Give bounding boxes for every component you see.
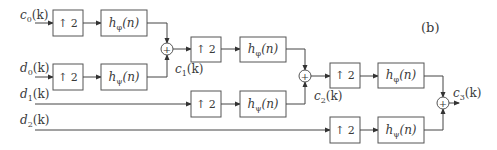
upsampler-stage3-d2: ↑ 2	[330, 117, 360, 143]
svg-text:c2(k): c2(k)	[314, 89, 342, 105]
scaling-filter-stage1: hφ(n)	[101, 10, 147, 36]
upsampler-stage2-c1: ↑ 2	[191, 37, 221, 62]
svg-text:↑ 2: ↑ 2	[196, 43, 216, 56]
upsampler-stage1-c0: ↑ 2	[53, 10, 83, 36]
svg-text:hψ(n): hψ(n)	[385, 123, 416, 139]
svg-text:hφ(n): hφ(n)	[109, 16, 140, 32]
svg-text:↑ 2: ↑ 2	[196, 98, 216, 111]
output-c1: c1(k)	[175, 62, 203, 78]
svg-text:↑ 2: ↑ 2	[58, 71, 78, 84]
adder-stage2: +	[299, 70, 311, 82]
adder-stage1: +	[161, 43, 173, 55]
output-c2: c2(k)	[314, 89, 342, 105]
svg-text:↑ 2: ↑ 2	[58, 17, 78, 30]
svg-text:hψ(n): hψ(n)	[108, 70, 139, 86]
upsampler-stage2-d1: ↑ 2	[191, 91, 221, 117]
svg-text:d2(k): d2(k)	[20, 113, 49, 129]
upsampler-stage3-c2: ↑ 2	[330, 63, 360, 88]
output-c3: c3(k)	[453, 86, 481, 102]
svg-text:c1(k): c1(k)	[175, 62, 203, 78]
svg-text:↑ 2: ↑ 2	[335, 69, 355, 82]
upsampler-stage1-d0: ↑ 2	[53, 64, 83, 90]
svg-text:hφ(n): hφ(n)	[248, 42, 279, 58]
input-d0: d0(k)	[20, 61, 49, 77]
scaling-filter-stage3: hφ(n)	[378, 63, 424, 88]
svg-text:d0(k): d0(k)	[20, 61, 49, 77]
wavelet-filter-stage3: hψ(n)	[378, 117, 424, 143]
svg-text:+: +	[301, 71, 309, 82]
svg-text:c3(k): c3(k)	[453, 86, 481, 102]
svg-text:c0(k): c0(k)	[20, 8, 48, 24]
panel-label: (b)	[421, 20, 439, 35]
filter-bank-diagram: (b) c0(k) ↑ 2 hφ(n) d0(k) ↑ 2 hψ(n) + c1…	[0, 0, 497, 150]
svg-text:+: +	[439, 98, 447, 109]
svg-text:+: +	[163, 44, 171, 55]
scaling-filter-stage2: hφ(n)	[240, 37, 286, 62]
wavelet-filter-stage2: hψ(n)	[240, 91, 286, 117]
input-d1: d1(k)	[20, 87, 49, 103]
input-c0: c0(k)	[20, 8, 48, 24]
svg-text:↑ 2: ↑ 2	[335, 124, 355, 137]
wavelet-filter-stage1: hψ(n)	[101, 64, 147, 90]
input-d2: d2(k)	[20, 113, 49, 129]
svg-text:hφ(n): hφ(n)	[386, 68, 417, 84]
svg-text:d1(k): d1(k)	[20, 87, 49, 103]
svg-text:hψ(n): hψ(n)	[247, 97, 278, 113]
adder-stage3: +	[437, 97, 449, 109]
